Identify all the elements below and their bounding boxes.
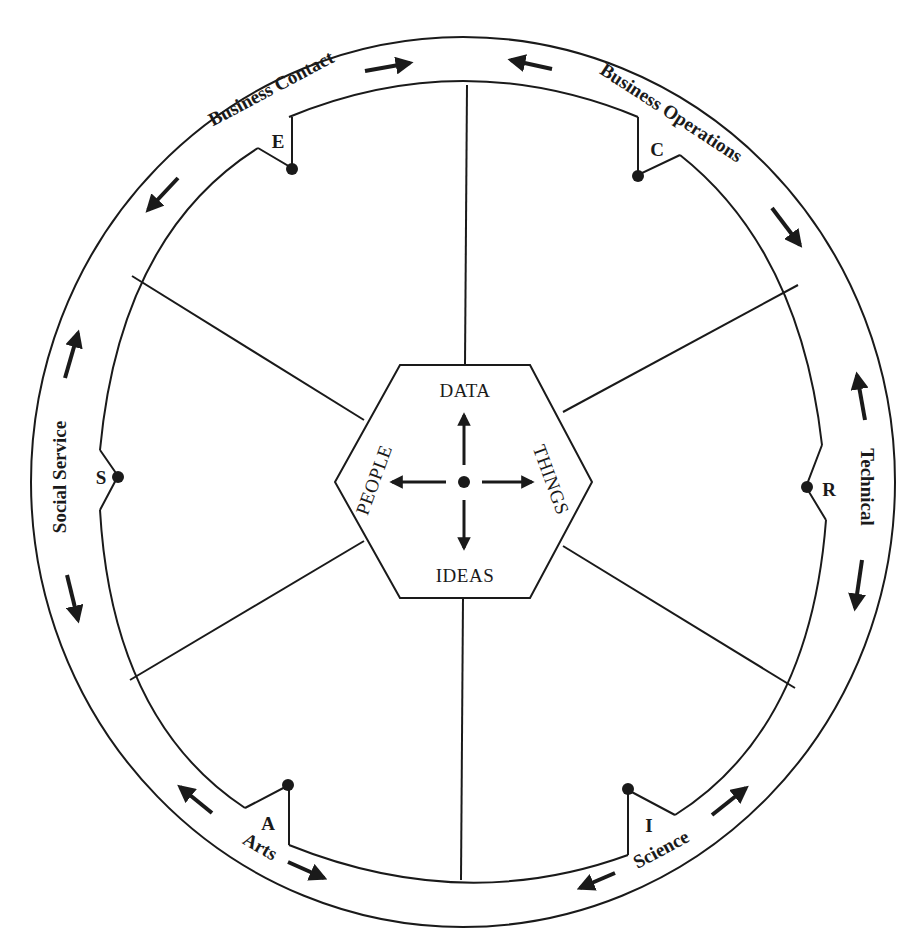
- cluster-dot-E: [286, 163, 298, 175]
- ring-arrow-icon: [855, 560, 862, 608]
- ring-arrows: [65, 60, 865, 888]
- cluster-name-business-contact: Business Contact: [205, 46, 338, 130]
- cluster-name-business-operations: Business Operations: [597, 59, 747, 167]
- center-dot: [458, 476, 470, 488]
- ring-arrow-icon: [288, 862, 324, 878]
- ring-arrow-icon: [365, 63, 410, 71]
- hex-label-data: DATA: [439, 380, 490, 401]
- cluster-code-R: R: [822, 479, 836, 500]
- hex-label-things: THINGS: [529, 442, 574, 517]
- cluster-dot-S: [112, 471, 124, 483]
- hex-label-people: PEOPLE: [352, 442, 397, 517]
- cluster-name-technical: Technical: [857, 448, 878, 525]
- ring-arrow-icon: [712, 788, 746, 815]
- ring-arrow-icon: [511, 60, 552, 69]
- cluster-code-S: S: [96, 467, 107, 488]
- cluster-dot-A: [282, 779, 294, 791]
- hex-label-ideas: IDEAS: [436, 565, 494, 586]
- ring-arrow-icon: [65, 333, 78, 378]
- cluster-code-E: E: [272, 131, 285, 152]
- cluster-code-I: I: [645, 815, 652, 836]
- ring-arrow-icon: [148, 178, 178, 210]
- ring-arrow-icon: [772, 208, 800, 245]
- cluster-dot-C: [632, 170, 644, 182]
- cluster-code-A: A: [261, 813, 275, 834]
- cluster-dot-R: [801, 481, 813, 493]
- cluster-code-C: C: [650, 139, 664, 160]
- career-wheel-diagram: DATA IDEAS PEOPLE THINGS E C R I A S Bus…: [0, 0, 911, 949]
- ring-arrow-icon: [67, 575, 78, 620]
- cluster-name-social-service: Social Service: [49, 421, 70, 533]
- ring-arrow-icon: [857, 375, 865, 420]
- ring-arrow-icon: [580, 873, 615, 888]
- ring-arrow-icon: [180, 787, 212, 813]
- cluster-dot-I: [622, 783, 634, 795]
